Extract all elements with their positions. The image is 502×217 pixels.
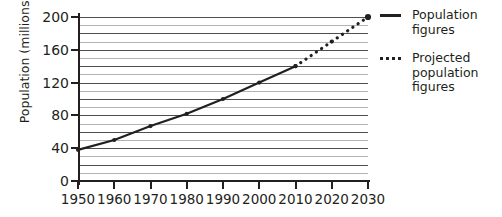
x-tick-mark xyxy=(113,182,115,189)
x-tick-mark xyxy=(295,182,297,189)
y-tick-mark xyxy=(71,114,78,116)
x-tick-label: 2030 xyxy=(351,191,385,207)
y-tick-label: 200 xyxy=(42,9,69,25)
x-tick-label: 2000 xyxy=(242,191,276,207)
dotted-line-key xyxy=(378,51,404,66)
data-point-marker xyxy=(293,64,297,68)
x-tick-mark xyxy=(222,182,224,189)
legend-label: Population figures xyxy=(412,8,502,37)
population-line-chart: Population (millions) 04080120160200 195… xyxy=(0,0,502,217)
y-tick-label: 120 xyxy=(42,75,69,91)
plot-area: 04080120160200 xyxy=(78,17,368,181)
series-layer xyxy=(78,17,368,181)
data-point-marker xyxy=(330,40,334,44)
population-line xyxy=(78,66,296,150)
y-tick-label: 0 xyxy=(60,173,69,189)
y-tick-mark xyxy=(71,49,78,51)
data-point-marker xyxy=(365,14,371,20)
y-axis-title: Population (millions) xyxy=(17,0,32,148)
legend-label: Projected population figures xyxy=(412,51,502,95)
data-point-marker xyxy=(148,124,152,128)
x-tick-mark xyxy=(331,182,333,189)
solid-line-key xyxy=(378,8,404,23)
y-tick-label: 80 xyxy=(51,107,69,123)
x-tick-label: 1990 xyxy=(206,191,240,207)
x-tick-label: 1950 xyxy=(61,191,95,207)
x-tick-mark xyxy=(150,182,152,189)
x-tick-mark xyxy=(367,182,369,189)
data-point-marker xyxy=(185,112,189,116)
y-tick-label: 40 xyxy=(51,140,69,156)
data-point-marker xyxy=(112,138,116,142)
y-tick-mark xyxy=(71,82,78,84)
legend-item-projected-population-figures: Projected population figures xyxy=(378,51,502,95)
x-tick-mark xyxy=(186,182,188,189)
x-axis-ticks: 195019601970198019902000201020202030 xyxy=(78,182,368,212)
data-point-marker xyxy=(257,81,261,85)
y-tick-label: 160 xyxy=(42,42,69,58)
x-tick-label: 1980 xyxy=(170,191,204,207)
x-tick-label: 1970 xyxy=(133,191,167,207)
x-tick-mark xyxy=(258,182,260,189)
y-axis-line xyxy=(78,13,80,185)
x-tick-label: 1960 xyxy=(97,191,131,207)
x-tick-label: 2010 xyxy=(278,191,312,207)
legend: Population figures Projected population … xyxy=(378,8,502,109)
x-tick-mark xyxy=(77,182,79,189)
legend-item-population-figures: Population figures xyxy=(378,8,502,37)
y-tick-mark xyxy=(71,16,78,18)
x-tick-label: 2020 xyxy=(315,191,349,207)
data-point-marker xyxy=(221,97,225,101)
